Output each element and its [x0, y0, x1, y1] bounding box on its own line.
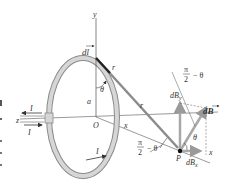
angle-label-top: π 2 − θ [183, 65, 204, 84]
point-P [178, 149, 182, 153]
svg-text:2: 2 [184, 75, 188, 84]
current-out-label: I [27, 128, 31, 137]
r-unit-label: r [112, 63, 116, 72]
dB-label: dB [203, 106, 214, 116]
loop-current-arrow [86, 156, 106, 160]
svg-text:π: π [184, 65, 188, 74]
x-axis-end-label: x [208, 148, 213, 157]
theta-top-label: θ [100, 85, 104, 94]
lead-wires [20, 113, 53, 123]
dBy-label: dBy [170, 91, 182, 101]
svg-text:2: 2 [138, 148, 142, 157]
theta-P-label: θ [193, 133, 197, 142]
dBx-label: dBx [186, 158, 198, 168]
current-loop-diagram: y dl r θ a r O x z I I I π 2 − θ π 2 [0, 0, 228, 182]
svg-text:− θ: − θ [193, 71, 204, 80]
loop-current-label: I [95, 147, 99, 156]
origin-label: O [93, 121, 99, 130]
radius-label: a [87, 97, 91, 106]
dl-label: dl [82, 47, 90, 57]
z-axis-label: z [15, 116, 20, 125]
point-P-label: P [175, 154, 181, 163]
y-axis-label: y [92, 10, 97, 19]
left-edge-text-fragments [0, 100, 2, 166]
angle-arc-r [160, 138, 167, 148]
current-in-label: I [29, 104, 33, 113]
x-axis-near-label: x [123, 121, 128, 130]
svg-text:π: π [138, 138, 142, 147]
svg-text:− θ: − θ [147, 144, 158, 153]
